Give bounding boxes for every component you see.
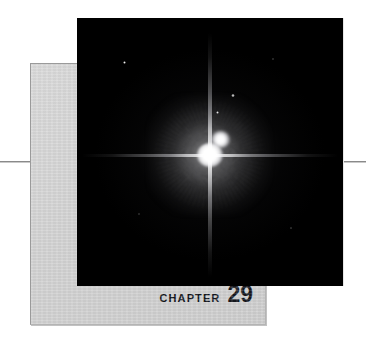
- field-star-6: [290, 227, 292, 229]
- star-photograph: [77, 18, 344, 286]
- chapter-opener-page: CHAPTER 29: [0, 0, 366, 343]
- chapter-label: CHAPTER 29: [160, 283, 253, 306]
- field-star-5: [138, 213, 140, 215]
- horizontal-rule-right: [344, 161, 366, 163]
- chapter-word: CHAPTER: [160, 292, 221, 304]
- primary-star: [197, 143, 223, 167]
- field-star-4: [272, 58, 274, 60]
- field-star-1: [123, 61, 126, 64]
- horizontal-rule-left: [0, 161, 32, 163]
- chapter-number: 29: [227, 283, 253, 306]
